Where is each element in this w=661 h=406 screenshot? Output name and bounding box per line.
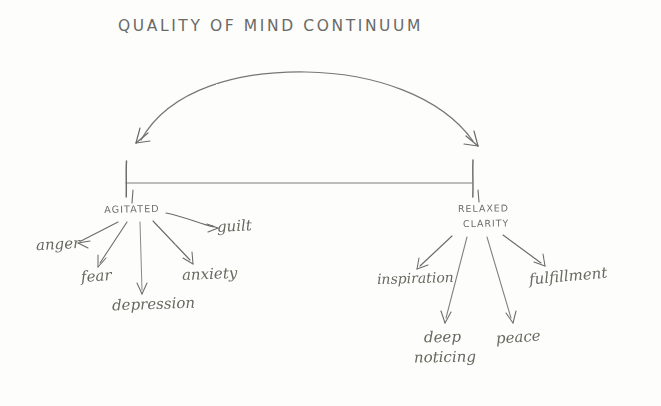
state-label-anxiety: anxiety xyxy=(182,266,238,283)
state-label-fear: fear xyxy=(81,268,113,285)
state-label-anger: anger xyxy=(36,236,81,253)
pole-label-clarity: CLARITY xyxy=(463,218,509,228)
state-label-inspiration: inspiration xyxy=(377,270,454,286)
continuum-axis xyxy=(126,160,473,197)
page-title: QUALITY OF MIND CONTINUUM xyxy=(118,18,423,34)
state-label-guilt: guilt xyxy=(217,218,253,235)
quality-of-mind-continuum-diagram: QUALITY OF MIND CONTINUUM AGITATED RELAX… xyxy=(0,0,661,406)
state-label-deep: deep xyxy=(424,330,461,346)
state-label-depression: depression xyxy=(112,296,195,314)
pole-label-relaxed: RELAXED xyxy=(458,203,509,213)
diagram-sketch-layer xyxy=(0,0,661,406)
continuum-arc xyxy=(136,72,478,146)
pole-label-agitated: AGITATED xyxy=(104,204,160,215)
state-label-peace: peace xyxy=(496,328,542,346)
state-label-noticing: noticing xyxy=(414,349,476,365)
